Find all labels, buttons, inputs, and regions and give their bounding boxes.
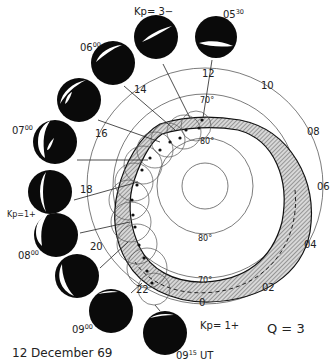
hour-label-08: 08 xyxy=(307,126,320,137)
ring-80deg xyxy=(157,138,253,234)
hour-label-16: 16 xyxy=(95,128,108,139)
allsky-image-kp3 xyxy=(134,15,178,59)
time-label-0700: 0700 xyxy=(12,124,33,136)
allsky-image-0700 xyxy=(33,120,77,164)
kp-label-1plus-bottom: Kp= 1+ xyxy=(200,320,239,331)
lat-label-70-bottom: 70° xyxy=(198,276,212,285)
kp-label-3minus: Kp= 3− xyxy=(134,6,173,17)
time-label-0530: 0530 xyxy=(223,8,244,20)
hour-label-18: 18 xyxy=(80,184,93,195)
lat-label-80-top: 80° xyxy=(200,137,214,146)
allsky-image-0730 xyxy=(28,170,72,214)
hour-label-20: 20 xyxy=(90,241,103,252)
time-label-0915: 0915UT xyxy=(176,349,214,361)
hour-label-22: 22 xyxy=(136,284,149,295)
q-index-label: Q = 3 xyxy=(267,321,305,336)
lat-label-80-bottom: 80° xyxy=(198,234,212,243)
hour-label-02: 02 xyxy=(262,282,275,293)
hour-label-04: 04 xyxy=(304,239,317,250)
auroral-oval-diagram: 12 10 08 06 04 02 0 22 20 18 16 14 70° 8… xyxy=(0,0,333,363)
hour-label-0: 0 xyxy=(199,297,205,308)
hour-label-10: 10 xyxy=(261,80,274,91)
hour-label-12: 12 xyxy=(202,68,215,79)
ring-inner xyxy=(182,163,228,209)
allsky-image-0830 xyxy=(55,254,99,298)
time-label-0900: 0900 xyxy=(72,323,93,335)
allsky-image-0915 xyxy=(143,311,187,355)
allsky-image-0630 xyxy=(57,78,101,122)
hour-label-06: 06 xyxy=(317,181,330,192)
allsky-image-0530 xyxy=(195,16,237,58)
hour-label-14: 14 xyxy=(134,84,147,95)
lat-label-70-top: 70° xyxy=(200,96,214,105)
date-caption: 12 December 69 xyxy=(12,346,112,360)
time-label-0800: 0800 xyxy=(18,249,39,261)
allsky-image-0900 xyxy=(89,289,133,333)
kp-label-1plus-left: Kp=1+ xyxy=(7,210,36,219)
allsky-image-0800 xyxy=(34,213,78,257)
